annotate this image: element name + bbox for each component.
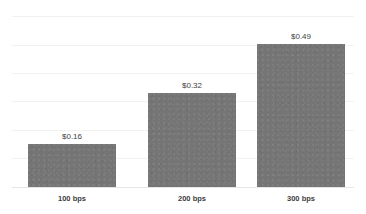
- bar-chart: $0.16$0.32$0.49 100 bps200 bps300 bps: [0, 0, 366, 214]
- chart-title: [0, 0, 366, 2]
- x-axis-line: [12, 187, 354, 188]
- bar-value-label: $0.16: [28, 132, 116, 142]
- category-label: 200 bps: [148, 194, 236, 204]
- bar-value-label: $0.32: [148, 81, 236, 91]
- category-label: 100 bps: [28, 194, 116, 204]
- bar[interactable]: [148, 93, 236, 187]
- bar[interactable]: [28, 144, 116, 187]
- bar-value-label: $0.49: [257, 32, 345, 42]
- gridline: [12, 16, 354, 17]
- bar[interactable]: [257, 44, 345, 187]
- category-label: 300 bps: [257, 194, 345, 204]
